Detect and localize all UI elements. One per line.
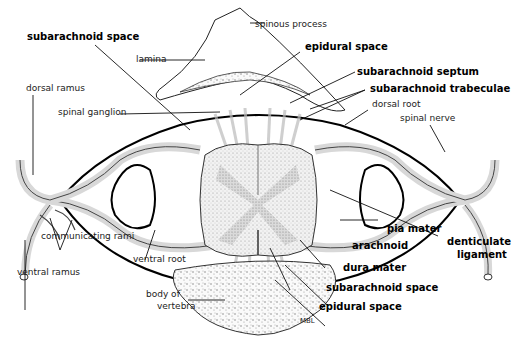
spinal-cord-diagram — [0, 0, 515, 346]
label-arachnoid: arachnoid — [352, 241, 408, 251]
label-spinous-process: spinous process — [255, 20, 327, 29]
label-dorsal-root: dorsal root — [372, 100, 421, 109]
label-communicating-rami: communicating rami — [41, 232, 134, 241]
label-spinal-ganglion: spinal ganglion — [58, 108, 126, 117]
label-spinal-nerve: spinal nerve — [400, 114, 455, 123]
label-subarachnoid-septum: subarachnoid septum — [357, 67, 479, 77]
label-body-of-vertebra-1: body of — [146, 290, 180, 299]
label-dorsal-ramus: dorsal ramus — [26, 84, 85, 93]
label-credit: MBL — [300, 318, 315, 325]
label-subarachnoid-trabeculae: subarachnoid trabeculae — [370, 84, 510, 94]
label-ventral-root: ventral root — [133, 255, 186, 264]
label-denticulate-ligament-2: ligament — [457, 250, 507, 260]
label-epidural-space-top: epidural space — [305, 42, 388, 52]
label-epidural-space-bottom: epidural space — [319, 302, 402, 312]
label-dura-mater: dura mater — [343, 263, 406, 273]
label-ventral-ramus: ventral ramus — [17, 268, 80, 277]
label-body-of-vertebra-2: vertebra — [157, 302, 196, 311]
label-lamina: lamina — [136, 55, 167, 64]
spinal-cord — [200, 144, 317, 257]
label-subarachnoid-space-bottom: subarachnoid space — [326, 283, 438, 293]
label-pia-mater: pia mater — [387, 224, 441, 234]
label-denticulate-ligament-1: denticulate — [447, 237, 511, 247]
label-subarachnoid-space-top: subarachnoid space — [27, 32, 139, 42]
